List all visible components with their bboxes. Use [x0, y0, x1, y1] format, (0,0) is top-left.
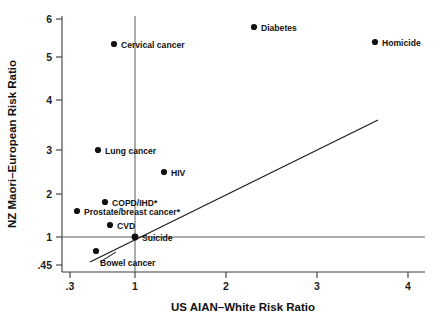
dot-diabetes[interactable]: [251, 24, 257, 30]
point-label-lung-cancer: Lung cancer: [105, 146, 157, 156]
data-point-suicide[interactable]: Suicide: [132, 233, 173, 243]
dot-copd-ihd[interactable]: [102, 199, 108, 205]
dot-hiv[interactable]: [161, 169, 167, 175]
data-point-cvd[interactable]: CVD: [107, 221, 135, 231]
dot-cervical-cancer[interactable]: [111, 41, 117, 47]
point-label-diabetes: Diabetes: [261, 23, 297, 33]
point-label-suicide: Suicide: [142, 233, 173, 243]
x-axis-ticks: .3 1 2 3 4: [66, 272, 411, 292]
point-label-cvd: CVD: [117, 221, 135, 231]
chart-page: 6 5 4 3 2 1 .45 .3 1 2 3 4: [0, 0, 444, 318]
data-points: Diabetes Homicide Cervical cancer Lung c…: [74, 23, 421, 269]
data-point-lung-cancer[interactable]: Lung cancer: [95, 146, 157, 156]
x-tick-label-3: 3: [314, 280, 320, 292]
data-point-prostate-breast-cancer[interactable]: Prostate/breast cancer*: [74, 207, 181, 217]
dot-prostate-breast-cancer[interactable]: [74, 208, 80, 214]
point-label-hiv: HIV: [171, 168, 186, 178]
y-tick-label-6: 6: [46, 13, 52, 25]
dot-lung-cancer[interactable]: [95, 147, 101, 153]
y-axis-ticks: 6 5 4 3 2 1 .45: [37, 13, 62, 271]
y-tick-label-2: 2: [46, 188, 52, 200]
y-tick-label-4: 4: [46, 94, 52, 106]
y-tick-label-045: .45: [37, 259, 52, 271]
data-point-cervical-cancer[interactable]: Cervical cancer: [111, 40, 185, 50]
data-point-bowel-cancer[interactable]: Bowel cancer: [93, 248, 156, 268]
scatter-plot: 6 5 4 3 2 1 .45 .3 1 2 3 4: [0, 0, 444, 318]
point-label-prostate-breast-cancer: Prostate/breast cancer*: [84, 207, 181, 217]
data-point-homicide[interactable]: Homicide: [372, 38, 421, 48]
x-tick-label-4: 4: [405, 280, 411, 292]
dot-cvd[interactable]: [107, 222, 113, 228]
dot-bowel-cancer[interactable]: [93, 248, 99, 254]
x-tick-label-1: 1: [132, 280, 138, 292]
x-tick-label-2: 2: [223, 280, 229, 292]
data-point-hiv[interactable]: HIV: [161, 168, 186, 178]
y-tick-label-3: 3: [46, 144, 52, 156]
y-axis-title: NZ Maori–European Risk Ratio: [6, 60, 18, 228]
x-axis-title: US AIAN–White Risk Ratio: [171, 301, 315, 313]
y-tick-label-1: 1: [46, 231, 52, 243]
y-tick-label-5: 5: [46, 51, 52, 63]
dot-homicide[interactable]: [372, 39, 378, 45]
x-tick-label-03: .3: [66, 280, 75, 292]
diagonal-fit-line: [90, 120, 378, 262]
data-point-diabetes[interactable]: Diabetes: [251, 23, 297, 33]
point-label-homicide: Homicide: [382, 38, 421, 48]
point-label-cervical-cancer: Cervical cancer: [121, 40, 185, 50]
dot-suicide[interactable]: [132, 234, 139, 241]
point-label-bowel-cancer: Bowel cancer: [100, 258, 156, 268]
